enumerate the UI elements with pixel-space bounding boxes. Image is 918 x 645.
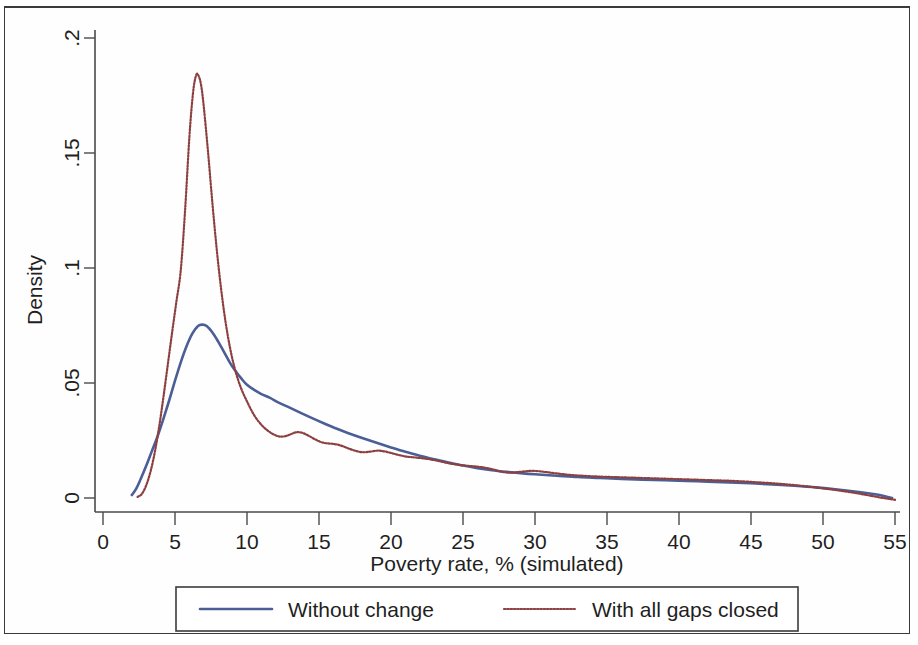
y-axis-label: Density [23,254,46,325]
series-line-with-all-gaps-closed [138,74,895,500]
legend-label-without-change: Without change [288,598,434,621]
x-tick-label: 10 [235,530,258,553]
y-tick-label: .15 [60,138,83,167]
x-tick-label: 55 [883,530,906,553]
chart-canvas: 0.05.1.15.2 0510152025303540455055 Densi… [0,0,918,645]
x-tick-label: 35 [595,530,618,553]
series-group [132,74,895,500]
legend-label-with-all-gaps-closed: With all gaps closed [592,598,779,621]
density-chart: 0.05.1.15.2 0510152025303540455055 Densi… [0,0,918,645]
y-tick-label: .05 [60,368,83,397]
x-axis-ticks: 0510152025303540455055 [97,512,907,553]
x-tick-label: 20 [379,530,402,553]
y-tick-label: .2 [60,29,83,47]
x-tick-label: 45 [739,530,762,553]
y-axis-ticks: 0.05.1.15.2 [60,29,95,504]
y-tick-label: 0 [60,492,83,504]
x-tick-label: 15 [307,530,330,553]
x-tick-label: 25 [451,530,474,553]
x-tick-label: 5 [169,530,181,553]
x-axis-label: Poverty rate, % (simulated) [370,552,623,575]
y-tick-label: .1 [60,259,83,277]
legend: Without change With all gaps closed [176,587,798,631]
x-tick-label: 40 [667,530,690,553]
x-tick-label: 30 [523,530,546,553]
x-tick-label: 0 [97,530,109,553]
x-tick-label: 50 [811,530,834,553]
